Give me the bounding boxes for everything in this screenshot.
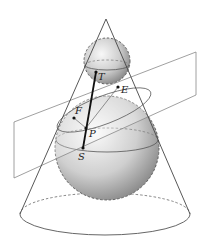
label-F: F — [74, 105, 83, 116]
point-S — [81, 146, 84, 149]
label-P: P — [88, 128, 96, 139]
label-E: E — [120, 84, 129, 95]
point-F — [72, 116, 75, 119]
point-E — [116, 85, 119, 88]
point-P — [84, 126, 87, 129]
label-S: S — [78, 151, 85, 162]
small-sphere — [84, 38, 130, 84]
cone-diagram: T E F P S — [0, 0, 210, 251]
base-ellipse-front — [20, 214, 190, 235]
